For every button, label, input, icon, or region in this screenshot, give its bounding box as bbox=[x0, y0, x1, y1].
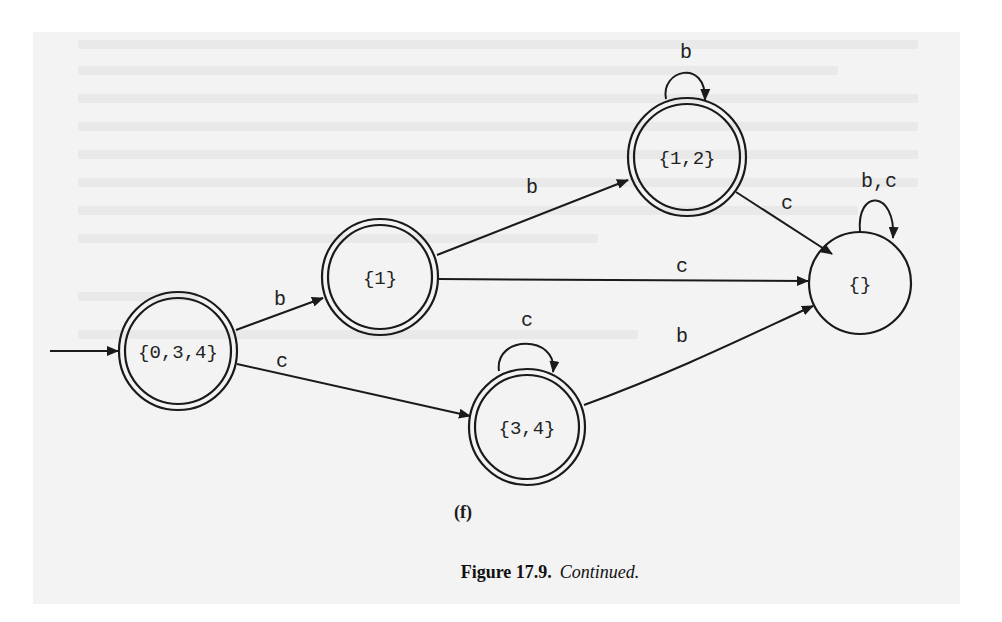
edge-1-to-empty bbox=[438, 279, 808, 281]
edge-label: b bbox=[526, 176, 538, 199]
state-1-2: {1,2} bbox=[628, 98, 746, 216]
edge-label: b bbox=[680, 41, 692, 64]
edge-label: b,c bbox=[861, 170, 897, 193]
edge-label: c bbox=[676, 255, 688, 278]
scanned-page: {0,3,4} {1} {1,2} {3,4} {} b bbox=[0, 0, 1002, 622]
state-label: {0,3,4} bbox=[138, 342, 218, 364]
edge-label: c bbox=[521, 309, 533, 332]
self-loop-34 bbox=[499, 344, 554, 372]
state-label: {} bbox=[849, 274, 872, 296]
state-empty: {} bbox=[809, 232, 911, 334]
edge-label: b bbox=[274, 288, 286, 311]
edge-label: c bbox=[781, 192, 793, 215]
edge-034-to-34 bbox=[237, 364, 470, 416]
state-3-4: {3,4} bbox=[469, 369, 585, 485]
figure-number: Figure 17.9. bbox=[461, 562, 552, 582]
edge-label: b bbox=[676, 325, 688, 348]
state-label: {1} bbox=[363, 268, 397, 290]
automaton-diagram: {0,3,4} {1} {1,2} {3,4} {} b bbox=[0, 0, 1002, 622]
self-loop-12 bbox=[665, 73, 705, 100]
state-0-3-4: {0,3,4} bbox=[119, 292, 237, 410]
figure-caption-text: Continued. bbox=[560, 562, 640, 582]
sub-figure-label: (f) bbox=[448, 502, 478, 523]
state-label: {3,4} bbox=[498, 418, 555, 440]
state-label: {1,2} bbox=[658, 148, 715, 170]
state-1: {1} bbox=[322, 219, 438, 335]
figure-caption: Figure 17.9.Continued. bbox=[350, 562, 750, 583]
edge-label: c bbox=[276, 350, 288, 373]
edge-34-to-empty bbox=[584, 306, 813, 405]
